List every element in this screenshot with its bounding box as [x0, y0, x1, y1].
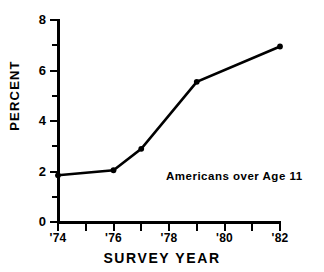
data-point	[194, 79, 200, 85]
data-series-layer	[0, 0, 324, 272]
data-point	[55, 172, 61, 178]
data-point	[138, 146, 144, 152]
chart-container: 02468'74'76'78'80'82 PERCENT SURVEY YEAR…	[0, 0, 324, 272]
data-point	[111, 167, 117, 173]
data-point	[277, 44, 283, 50]
series-markers-0	[55, 44, 283, 179]
series-line-0	[58, 47, 280, 176]
